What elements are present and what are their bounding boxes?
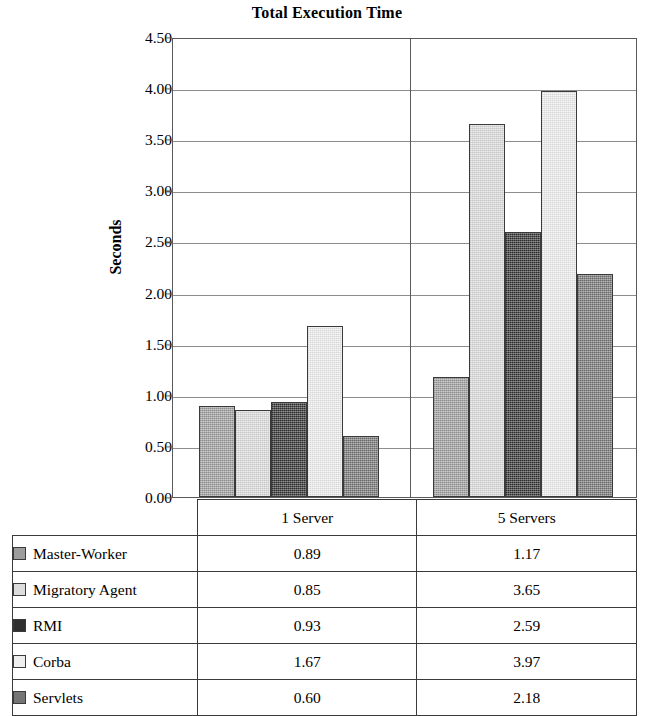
legend-entry: Master-Worker (13, 536, 198, 572)
bar (199, 406, 235, 497)
data-value-cell: 1.17 (417, 536, 637, 572)
table-row: Master-Worker0.891.17 (13, 536, 637, 572)
bar-fill-texture (506, 233, 540, 496)
y-tick-label: 4.00 (110, 81, 172, 97)
bar (577, 274, 613, 497)
y-tick-label: 0.50 (110, 439, 172, 455)
legend-label: Migratory Agent (33, 581, 137, 598)
data-value-cell: 0.60 (197, 680, 416, 716)
data-value-cell: 2.59 (417, 608, 637, 644)
table-row: Migratory Agent0.853.65 (13, 572, 637, 608)
plot-area (172, 38, 637, 498)
legend-entry: Migratory Agent (13, 572, 198, 608)
y-axis-ticks: 4.504.003.503.002.502.001.501.000.500.00 (100, 38, 172, 498)
bar (307, 326, 343, 497)
category-header-2: 5 Servers (417, 500, 637, 536)
bar (235, 410, 271, 497)
table-row: RMI0.932.59 (13, 608, 637, 644)
legend-swatch-icon (13, 655, 26, 668)
table-row: Servlets0.602.18 (13, 680, 637, 716)
y-tick-label: 1.50 (110, 337, 172, 353)
y-tick-label: 2.50 (110, 235, 172, 251)
data-value-cell: 1.67 (197, 644, 416, 680)
table-corner-blank (13, 500, 198, 536)
y-tick-label: 4.50 (110, 30, 172, 46)
category-separator (410, 39, 411, 497)
bar-fill-texture (272, 403, 306, 496)
chart-title: Total Execution Time (0, 4, 654, 22)
legend-entry: Corba (13, 644, 198, 680)
bar (271, 402, 307, 497)
bar-fill-texture (200, 407, 234, 496)
legend-entry: RMI (13, 608, 198, 644)
bar (541, 91, 577, 497)
bar (505, 232, 541, 497)
legend-swatch-icon (13, 619, 26, 632)
legend-label: Corba (33, 653, 71, 670)
legend-swatch-icon (13, 691, 26, 704)
y-tick-label: 2.00 (110, 286, 172, 302)
y-tick-label: 3.50 (110, 132, 172, 148)
legend-label: RMI (33, 617, 62, 634)
bar-fill-texture (542, 92, 576, 496)
bar (469, 124, 505, 497)
data-value-cell: 3.97 (417, 644, 637, 680)
bar-fill-texture (434, 378, 468, 496)
legend-entry: Servlets (13, 680, 198, 716)
bar-fill-texture (308, 327, 342, 496)
bar (433, 377, 469, 497)
category-header-1: 1 Server (197, 500, 416, 536)
bar-fill-texture (236, 411, 270, 496)
bar-fill-texture (470, 125, 504, 496)
bar (343, 436, 379, 497)
data-value-cell: 0.85 (197, 572, 416, 608)
y-tick-label: 3.00 (110, 184, 172, 200)
legend-data-table: 1 Server5 ServersMaster-Worker0.891.17Mi… (12, 499, 637, 716)
bar-fill-texture (578, 275, 612, 496)
data-value-cell: 3.65 (417, 572, 637, 608)
table-header-row: 1 Server5 Servers (13, 500, 637, 536)
legend-label: Master-Worker (33, 545, 127, 562)
data-value-cell: 0.89 (197, 536, 416, 572)
data-value-cell: 2.18 (417, 680, 637, 716)
data-value-cell: 0.93 (197, 608, 416, 644)
legend-swatch-icon (13, 547, 26, 560)
y-tick-label: 1.00 (110, 388, 172, 404)
table-row: Corba1.673.97 (13, 644, 637, 680)
legend-label: Servlets (33, 689, 83, 706)
bar-fill-texture (344, 437, 378, 496)
legend-swatch-icon (13, 583, 26, 596)
